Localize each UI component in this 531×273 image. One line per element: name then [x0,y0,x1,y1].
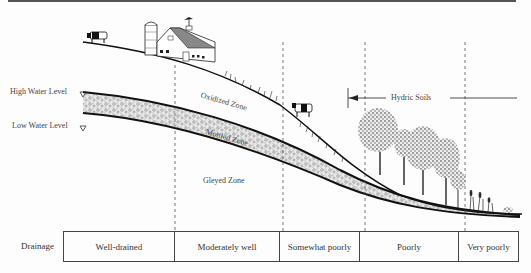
drainage-class-well-drained: Well-drained [64,232,175,262]
arrow-left-icon [349,95,358,101]
gleyed-zone-label: Gleyed Zone [203,176,245,185]
low-water-level-label: Low Water Level [12,121,68,130]
high-water-level-label: High Water Level [10,87,67,96]
barn-icon [157,28,215,62]
cow-icon [87,32,107,43]
cow-icon [292,103,312,117]
drainage-class-very-poorly: Very poorly [459,232,519,262]
hydric-soils-range [348,88,517,108]
hydric-soils-label: Hydric Soils [391,93,431,102]
drainage-class-moderately-well: Moderately well [175,232,280,262]
drainage-label: Drainage [21,241,54,251]
drainage-class-poorly: Poorly [360,232,459,262]
water-level-triangle-icon [80,126,86,131]
cattail-icon [470,190,513,213]
weathervane-icon [184,17,193,30]
drainage-class-table: Well-drained Moderately well Somewhat po… [63,231,519,262]
drainage-class-somewhat-poorly: Somewhat poorly [280,232,360,262]
tree-icon [358,108,398,175]
tree-icon [450,170,466,208]
soil-drainage-diagram: High Water Level Low Water Level Oxidize… [0,0,531,273]
silo-icon [145,22,157,55]
